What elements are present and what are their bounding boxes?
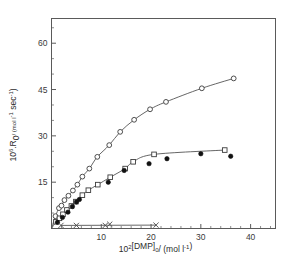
y-tick-label: 30 bbox=[38, 131, 48, 141]
x-axis-tick-labels: 10203040 bbox=[97, 232, 256, 242]
y-axis-label-text: 106.R0/ (mol l-1 sec-1) bbox=[8, 88, 21, 161]
marker-open-square bbox=[152, 152, 157, 157]
marker-filled-circle bbox=[229, 154, 233, 158]
marker-filled-circle bbox=[165, 157, 169, 161]
marker-filled-circle bbox=[106, 180, 110, 184]
marker-open-circle bbox=[132, 117, 137, 122]
marker-open-circle bbox=[148, 107, 153, 112]
marker-open-circle bbox=[87, 166, 92, 171]
marker-filled-circle bbox=[66, 210, 70, 214]
y-tick-label: 15 bbox=[38, 177, 48, 187]
marker-open-square bbox=[80, 193, 85, 198]
marker-open-circle bbox=[71, 188, 76, 193]
y-tick-label: 45 bbox=[38, 85, 48, 95]
marker-open-circle bbox=[107, 143, 112, 148]
marker-open-circle bbox=[95, 154, 100, 159]
marker-filled-circle bbox=[147, 161, 151, 165]
x-axis-label: 102[DMP]0/ (mol l-1) bbox=[119, 241, 193, 254]
series-markers bbox=[53, 76, 236, 228]
marker-open-circle bbox=[164, 99, 169, 104]
x-tick-label: 40 bbox=[246, 232, 256, 242]
curve-open-circle-series bbox=[52, 78, 234, 228]
marker-open-square bbox=[108, 175, 113, 180]
marker-filled-circle bbox=[60, 215, 64, 219]
marker-open-circle bbox=[62, 198, 67, 203]
chart-svg: 10203040 15304560 102[DMP]0/ (mol l-1) 1… bbox=[0, 0, 289, 266]
marker-filled-circle bbox=[70, 204, 74, 208]
marker-open-square bbox=[131, 159, 136, 164]
x-axis-label-text: 102[DMP]0/ (mol l-1) bbox=[119, 241, 193, 254]
marker-open-circle bbox=[59, 203, 64, 208]
y-tick-label: 60 bbox=[38, 38, 48, 48]
curve-open-square-series bbox=[52, 150, 225, 228]
marker-open-circle bbox=[231, 76, 236, 81]
marker-open-square bbox=[95, 182, 100, 187]
marker-open-circle bbox=[66, 193, 71, 198]
marker-open-circle bbox=[75, 182, 80, 187]
marker-open-circle bbox=[80, 174, 85, 179]
marker-filled-circle bbox=[77, 197, 81, 201]
marker-filled-circle bbox=[122, 168, 126, 172]
marker-filled-circle bbox=[199, 152, 203, 156]
marker-cross bbox=[107, 222, 112, 227]
x-tick-label: 30 bbox=[196, 232, 206, 242]
marker-open-square bbox=[222, 148, 227, 153]
chart-figure: 10203040 15304560 102[DMP]0/ (mol l-1) 1… bbox=[0, 0, 289, 266]
series-curves bbox=[52, 78, 234, 228]
x-axis-ticks bbox=[52, 224, 271, 229]
y-axis-tick-labels: 15304560 bbox=[38, 38, 48, 187]
marker-open-square bbox=[86, 188, 91, 193]
marker-open-circle bbox=[118, 129, 123, 134]
y-axis-ticks bbox=[52, 28, 57, 229]
y-axis-label: 106.R0/ (mol l-1 sec-1) bbox=[8, 88, 21, 161]
x-tick-label: 10 bbox=[97, 232, 107, 242]
marker-open-circle bbox=[199, 86, 204, 91]
